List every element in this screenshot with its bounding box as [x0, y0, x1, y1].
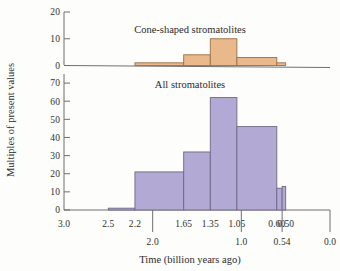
all-stromatolites-bar — [277, 188, 282, 210]
cone-shaped-bar — [184, 55, 211, 66]
all-stromatolites-bars — [108, 98, 285, 210]
all-stromatolites-bar — [237, 127, 277, 210]
y-tick-label: 0 — [55, 61, 60, 71]
cone-shaped-bar — [277, 63, 286, 66]
x-tick-label-lower: 0.54 — [274, 237, 291, 247]
y-tick-label: 40 — [50, 133, 60, 143]
panel-title-all-stromatolites: All stromatolites — [155, 79, 225, 90]
panel-all-stromatolites: All stromatolites 010203040506070 — [50, 74, 330, 215]
y-tick-label: 0 — [55, 205, 60, 215]
x-tick-label-lower: 1.0 — [235, 237, 247, 247]
x-tick-label-upper: 3.0 — [58, 219, 70, 229]
x-tick-label-upper: 2.2 — [129, 219, 141, 229]
panel-title-cone-shaped: Cone-shaped stromatolites — [134, 24, 246, 35]
top-y-ticks: 01020 — [50, 7, 70, 71]
y-tick-label: 10 — [50, 187, 60, 197]
cone-shaped-bar — [210, 39, 237, 66]
y-tick-label: 20 — [50, 7, 60, 17]
all-stromatolites-bar — [282, 186, 286, 210]
x-tick-label-upper: 2.5 — [102, 219, 114, 229]
all-stromatolites-bar — [108, 208, 135, 210]
x-tick-label-lower: 2.0 — [147, 237, 159, 247]
y-tick-label: 10 — [50, 34, 60, 44]
y-tick-label: 70 — [50, 78, 60, 88]
all-stromatolites-bar — [184, 152, 211, 210]
cone-shaped-bar — [237, 57, 277, 65]
y-tick-label: 50 — [50, 115, 60, 125]
cone-shaped-bars — [135, 39, 286, 66]
all-stromatolites-bar — [210, 98, 237, 210]
stromatolite-histogram-figure: Multiples of present values Cone-shaped … — [0, 0, 340, 271]
x-tick-label-upper: 1.35 — [202, 219, 219, 229]
all-stromatolites-bar — [135, 172, 184, 210]
x-tick-label-upper: 1.05 — [228, 219, 245, 229]
x-axis: 3.02.52.21.651.351.050.600.50 2.01.00.54… — [58, 210, 336, 266]
cone-shaped-bar — [135, 63, 184, 66]
x-axis-upper-labels: 3.02.52.21.651.351.050.600.50 — [58, 219, 294, 229]
x-tick-label-lower: 0.0 — [324, 237, 336, 247]
x-tick-label-upper: 0.50 — [277, 219, 294, 229]
y-tick-label: 30 — [50, 151, 60, 161]
x-tick-label-upper: 1.65 — [175, 219, 192, 229]
panel-cone-shaped: Cone-shaped stromatolites 01020 — [50, 7, 330, 71]
y-axis-title: Multiples of present values — [5, 63, 16, 177]
y-tick-label: 60 — [50, 97, 60, 107]
y-tick-label: 20 — [50, 169, 60, 179]
x-axis-title: Time (billion years ago) — [139, 254, 241, 266]
chart-canvas: Multiples of present values Cone-shaped … — [0, 0, 340, 271]
bottom-y-ticks: 010203040506070 — [50, 78, 70, 215]
